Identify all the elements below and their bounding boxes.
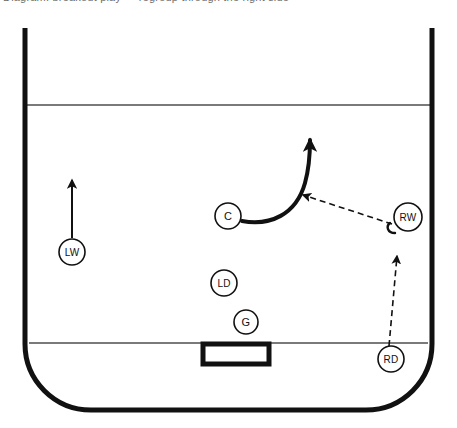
player-label-lw: LW [65,247,80,258]
player-label-rd: RD [384,354,399,365]
player-label-rw: RW [400,212,417,223]
rink-canvas: LW C LD G RW RD [0,0,457,428]
hockey-play-diagram: Diagram: breakout play — regroup through… [0,0,457,428]
player-label-c: C [224,210,232,222]
player-label-g: G [242,316,251,328]
player-goalie[interactable]: G [234,310,258,334]
player-center[interactable]: C [215,203,241,229]
player-right-defense[interactable]: RD [378,346,404,372]
player-label-ld: LD [217,278,230,289]
player-right-wing[interactable]: RW [394,203,422,231]
player-left-wing[interactable]: LW [59,239,85,265]
player-left-defense[interactable]: LD [211,270,237,296]
